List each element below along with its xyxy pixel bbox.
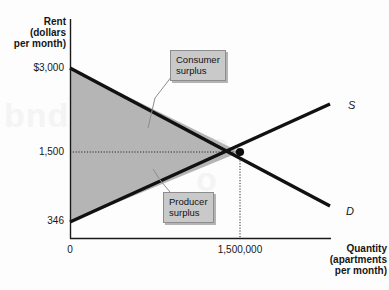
y-tick-label-1500: 1,500 [0,146,64,157]
y-axis-title: Rent (dollars per month) [0,16,66,49]
supply-demand-figure: bnd a o Rent (dollars per month) Quantit… [0,0,389,290]
y-tick-label-3000: $3,000 [0,62,64,73]
x-tick-label-origin: 0 [56,244,84,255]
demand-curve-label: D [346,206,354,217]
supply-curve-label: S [348,100,355,111]
x-tick-label-equilibrium: 1,500,000 [206,244,274,255]
producer-surplus-callout: Producer surplus [163,192,214,223]
consumer-surplus-callout: Consumer surplus [170,50,226,81]
equilibrium-point-marker [236,148,244,156]
x-axis-title: Quantity (apartments per month) [256,243,387,276]
y-tick-label-346: 346 [0,215,64,226]
